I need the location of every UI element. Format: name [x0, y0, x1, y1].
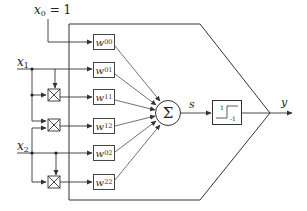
weight-w00: w00	[93, 34, 115, 50]
summation-node: Σ	[155, 100, 181, 126]
step-lower-label: -1	[230, 115, 236, 122]
junction-dot	[30, 67, 33, 70]
junction-dot	[30, 93, 33, 96]
multiplier-x1x2	[48, 119, 60, 131]
weight-to-sum-wires	[115, 46, 160, 180]
product-wires	[60, 97, 92, 182]
neuron-diagram	[0, 0, 307, 211]
x2-input-label: x2	[17, 140, 29, 154]
x1-input-label: x1	[17, 56, 29, 70]
step-upper-label: 1	[220, 104, 224, 111]
output-label: y	[281, 97, 287, 108]
weight-w02: w02	[93, 145, 115, 161]
step-activation-box: 1 -1	[212, 100, 242, 125]
multiplier-x1x1	[48, 89, 60, 101]
junction-dot	[54, 151, 57, 154]
weight-w01: w01	[93, 62, 115, 78]
weight-w22: w22	[93, 174, 115, 190]
sigma-symbol: Σ	[163, 104, 174, 122]
step-function-icon	[213, 101, 241, 124]
sum-output-label: s	[189, 99, 195, 110]
junction-dot	[30, 151, 33, 154]
weight-w11: w11	[93, 89, 115, 105]
x2-wires	[17, 128, 92, 182]
bias-input-label: x0 = 1	[34, 4, 71, 18]
weight-w12: w12	[93, 118, 115, 134]
multiplier-x2x2	[48, 176, 60, 188]
bias-wire	[48, 19, 92, 42]
